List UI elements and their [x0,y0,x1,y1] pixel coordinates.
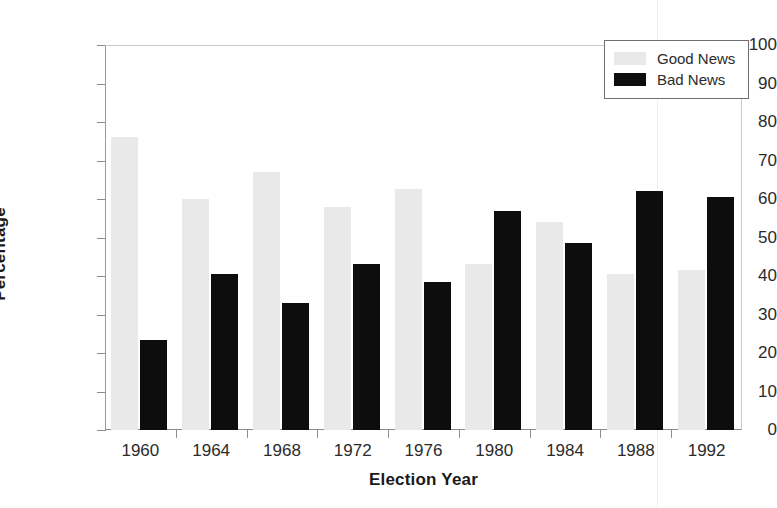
bar-good-news [324,207,351,430]
bar-good-news [182,199,209,430]
bar-group [182,45,238,430]
legend-swatch-icon [614,73,646,86]
x-axis-tick-label: 1972 [334,441,372,461]
bar-bad-news [282,303,309,430]
x-axis-tick [388,430,389,438]
bar-bad-news [636,191,663,430]
x-axis-tick-label: 1976 [405,441,443,461]
x-axis-tick [317,430,318,438]
x-axis-tick [247,430,248,438]
bar-good-news [678,270,705,430]
legend-item-label: Bad News [657,71,725,88]
legend-swatch-icon [614,52,646,65]
legend-item: Good News [614,48,739,69]
x-axis-tick-label: 1960 [121,441,159,461]
x-axis-tick-label: 1968 [263,441,301,461]
bar-group [324,45,380,430]
bar-group [253,45,309,430]
bar-good-news [536,222,563,430]
bar-bad-news [707,197,734,430]
x-axis-tick-label: 1984 [546,441,584,461]
bar-bad-news [424,282,451,430]
bar-group [395,45,451,430]
x-axis-tick [459,430,460,438]
bar-bad-news [353,264,380,430]
bar-group [678,45,734,430]
y-axis-tick [97,430,106,431]
x-axis-tick-label: 1992 [688,441,726,461]
bar-group [111,45,167,430]
bar-group [607,45,663,430]
legend-item: Bad News [614,69,739,90]
x-axis-tick-label: 1980 [475,441,513,461]
bar-bad-news [211,274,238,430]
x-axis-tick [176,430,177,438]
bar-bad-news [140,340,167,430]
bar-bad-news [494,211,521,430]
x-axis-tick [671,430,672,438]
x-axis-tick [530,430,531,438]
bar-good-news [395,189,422,430]
bar-good-news [465,264,492,430]
bar-good-news [111,137,138,430]
chart-legend: Good NewsBad News [604,40,749,99]
x-axis-tick-label: 1988 [617,441,655,461]
bar-group [465,45,521,430]
legend-item-label: Good News [657,50,735,67]
x-axis-tick-label: 1964 [192,441,230,461]
bar-good-news [253,172,280,430]
bar-chart: Percentage 0102030405060708090100 196019… [0,0,777,508]
bars-layer [105,45,742,430]
y-axis-title: Percentage [0,0,54,508]
bar-group [536,45,592,430]
bar-bad-news [565,243,592,430]
x-axis-tick [600,430,601,438]
x-axis-title: Election Year [105,470,742,490]
bar-good-news [607,274,634,430]
